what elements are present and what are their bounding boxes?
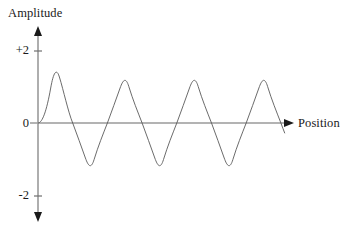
y-tick-label-zero: 0 [2, 116, 29, 131]
sine-wave-curve [38, 72, 285, 166]
wave-figure: Amplitude Position +2 0 -2 [0, 0, 359, 237]
y-axis-arrow-down-icon [34, 212, 42, 222]
y-tick-label-neg2: -2 [2, 188, 29, 203]
x-axis-title: Position [298, 116, 340, 131]
x-axis-arrow-right-icon [284, 119, 294, 127]
y-tick-label-pos2: +2 [2, 43, 29, 58]
y-axis-title: Amplitude [8, 6, 62, 21]
y-axis-arrow-up-icon [34, 26, 42, 36]
